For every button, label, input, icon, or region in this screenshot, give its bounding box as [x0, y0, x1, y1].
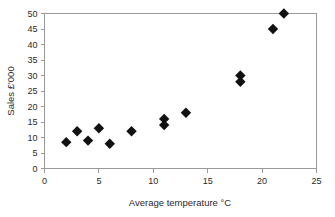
- x-tick-label: 25: [311, 176, 321, 186]
- y-tick-label: 10: [27, 133, 37, 143]
- y-tick-label: 5: [32, 148, 37, 158]
- data-point: [268, 24, 278, 34]
- data-point: [61, 137, 71, 147]
- scatter-chart: 05101520253035404550 0510152025 Average …: [0, 0, 335, 217]
- y-tick-label: 30: [27, 71, 37, 81]
- x-axis-title: Average temperature °C: [129, 197, 232, 208]
- x-tick-label: 10: [148, 176, 158, 186]
- y-tick-label: 40: [27, 40, 37, 50]
- x-tick-label: 0: [42, 176, 47, 186]
- data-point: [126, 126, 136, 136]
- y-axis: 05101520253035404550: [27, 9, 44, 174]
- x-tick-label: 15: [203, 176, 213, 186]
- x-axis: 0510152025: [42, 169, 322, 186]
- data-point: [83, 135, 93, 145]
- data-point: [279, 8, 289, 18]
- x-tick-label: 5: [96, 176, 101, 186]
- chart-canvas: 05101520253035404550 0510152025 Average …: [0, 0, 335, 217]
- data-point: [159, 120, 169, 130]
- y-tick-label: 25: [27, 86, 37, 96]
- y-tick-label: 35: [27, 55, 37, 65]
- data-point: [105, 139, 115, 149]
- y-tick-label: 20: [27, 102, 37, 112]
- y-axis-title: Sales £'000: [5, 66, 16, 115]
- x-tick-label: 20: [257, 176, 267, 186]
- y-tick-label: 50: [27, 9, 37, 19]
- y-tick-label: 15: [27, 117, 37, 127]
- data-point: [235, 77, 245, 87]
- data-point: [94, 123, 104, 133]
- data-point: [72, 126, 82, 136]
- y-tick-label: 0: [32, 164, 37, 174]
- plot-frame: [45, 14, 317, 169]
- data-point: [181, 108, 191, 118]
- y-tick-label: 45: [27, 24, 37, 34]
- data-point-series: [61, 8, 289, 149]
